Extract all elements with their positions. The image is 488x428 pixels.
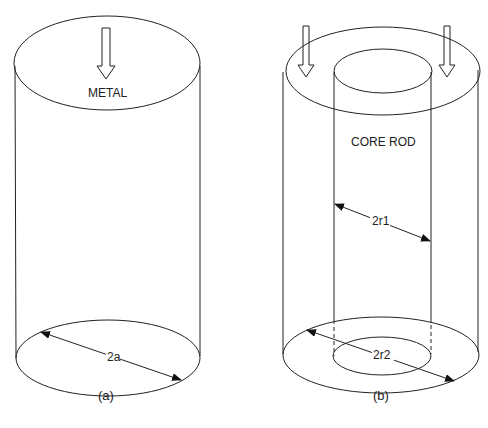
down-arrow-icon (97, 28, 115, 79)
inner-top-ellipse (334, 49, 432, 93)
diagram-canvas: METAL 2a (a) CORE ROD 2r1 2r2 (b) (0, 0, 488, 428)
figure-a-solid-cylinder (14, 16, 200, 396)
dimension-2a-label: 2a (107, 350, 121, 364)
metal-label: METAL (88, 86, 127, 100)
down-arrow-right-icon (439, 26, 455, 77)
figure-b-hollow-cylinder (283, 26, 480, 393)
dimension-2r2-label: 2r2 (373, 348, 391, 362)
caption-b: (b) (373, 388, 389, 403)
left-wall (15, 66, 16, 358)
dimension-2r1-label: 2r1 (372, 214, 390, 228)
down-arrow-left-icon (298, 26, 314, 77)
core-rod-label: CORE ROD (351, 135, 416, 149)
caption-a: (a) (98, 388, 114, 403)
